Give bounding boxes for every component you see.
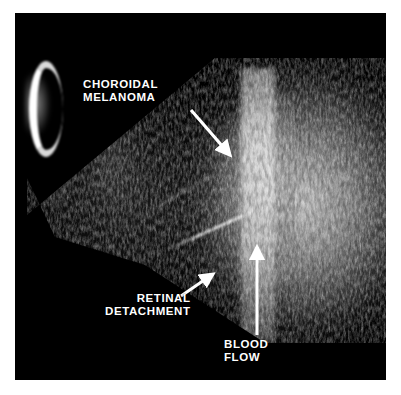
ultrasound-sector <box>15 13 386 380</box>
ultrasound-page: CHOROIDAL MELANOMA RETINAL DETACHMENT BL… <box>0 0 401 395</box>
label-retinal-detachment: RETINAL DETACHMENT <box>105 292 191 318</box>
speckle-texture-shadow <box>15 13 386 380</box>
label-blood-flow: BLOOD FLOW <box>224 338 269 364</box>
ultrasound-scan-panel: CHOROIDAL MELANOMA RETINAL DETACHMENT BL… <box>15 13 386 380</box>
corneal-apex-arc <box>29 61 63 157</box>
label-choroidal-melanoma: CHOROIDAL MELANOMA <box>83 78 158 104</box>
